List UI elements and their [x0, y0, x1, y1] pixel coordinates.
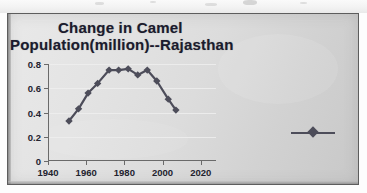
x-tick — [124, 161, 125, 165]
x-tick — [48, 161, 49, 165]
chart-title-line1: Change in Camel — [58, 19, 183, 36]
chart-title-line2: Population(million)--Rajasthan — [10, 36, 234, 53]
x-tick-label: 2000 — [152, 167, 173, 178]
data-series-camel-population — [48, 64, 216, 161]
legend-marker — [291, 128, 335, 137]
y-tick-label: 0.6 — [28, 83, 41, 94]
y-tick-label: 0 — [36, 156, 41, 167]
x-tick-label: 1960 — [76, 167, 97, 178]
y-tick-label: 0.4 — [28, 107, 41, 118]
y-tick-label: 0.8 — [28, 59, 41, 70]
x-tick — [201, 161, 202, 165]
frame-bottom-edge — [8, 181, 358, 184]
x-tick-label: 1940 — [37, 167, 58, 178]
scan-artifact-strip — [0, 0, 367, 13]
plot-area: 00.20.40.60.8 19401960198020002020 — [48, 64, 216, 161]
chart-screenshot: Change in Camel Population(million)--Raj… — [0, 0, 367, 193]
x-tick — [86, 161, 87, 165]
data-point-marker — [115, 66, 122, 73]
chart-frame: Change in Camel Population(million)--Raj… — [7, 13, 359, 185]
series-line — [69, 69, 176, 121]
y-tick-label: 0.2 — [28, 131, 41, 142]
x-tick — [163, 161, 164, 165]
x-tick-label: 2020 — [190, 167, 211, 178]
legend-diamond-icon — [307, 126, 318, 137]
x-tick-label: 1980 — [114, 167, 135, 178]
